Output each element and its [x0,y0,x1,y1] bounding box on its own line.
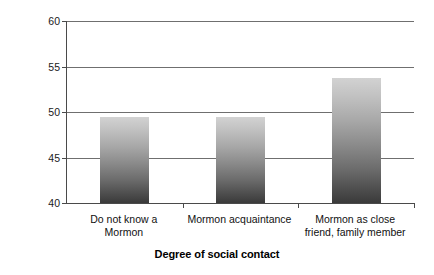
gridline-60 [67,21,414,22]
y-tick-mark-45 [62,158,67,159]
bar-2 [216,117,265,203]
x-tick-mark-1 [183,203,184,208]
gridline-40 [67,203,414,204]
x-tick-mark-3 [414,203,415,208]
y-tick-label-60: 60 [48,16,60,27]
category-label-line: Mormon [58,226,190,239]
x-category-label-1: Do not know aMormon [58,213,190,239]
y-tick-label-50: 50 [48,107,60,118]
y-tick-mark-40 [62,203,67,204]
y-tick-label-40: 40 [48,198,60,209]
y-tick-mark-50 [62,112,67,113]
bar-3 [332,78,381,203]
x-category-label-2: Mormon acquaintance [174,213,306,226]
category-label-line: friend, family member [289,226,421,239]
bar-chart: Feeling thermometer 4045505560 Degree of… [0,0,434,275]
y-tick-mark-55 [62,67,67,68]
y-tick-label-55: 55 [48,61,60,72]
x-category-label-3: Mormon as closefriend, family member [289,213,421,239]
category-label-line: Mormon acquaintance [174,213,306,226]
gridline-55 [67,67,414,68]
x-axis-title: Degree of social contact [0,248,434,260]
bar-1 [100,117,149,203]
plot-area: 4045505560 [66,21,414,204]
x-tick-mark-2 [298,203,299,208]
y-tick-mark-60 [62,21,67,22]
category-label-line: Mormon as close [289,213,421,226]
category-label-line: Do not know a [58,213,190,226]
y-tick-label-45: 45 [48,152,60,163]
